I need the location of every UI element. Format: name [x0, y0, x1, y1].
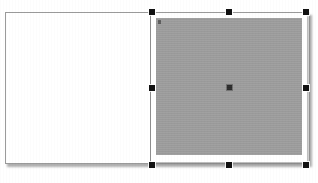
selection-handle-middle-right[interactable]: [303, 85, 309, 91]
editor-canvas[interactable]: [0, 0, 318, 183]
selection-handle-bottom-right[interactable]: [303, 162, 309, 168]
selection-handle-middle-left[interactable]: [149, 85, 155, 91]
selection-handle-bottom-center[interactable]: [226, 162, 232, 168]
image-placeholder-fill[interactable]: [156, 18, 302, 155]
image-placeholder[interactable]: [152, 14, 307, 162]
selection-handle-top-center[interactable]: [226, 9, 232, 15]
selection-handle-bottom-left[interactable]: [149, 162, 155, 168]
fill-corner-mark-icon: [158, 20, 161, 24]
center-anchor-icon[interactable]: [226, 84, 233, 91]
selection-handle-top-left[interactable]: [149, 9, 155, 15]
selection-handle-top-right[interactable]: [303, 9, 309, 15]
